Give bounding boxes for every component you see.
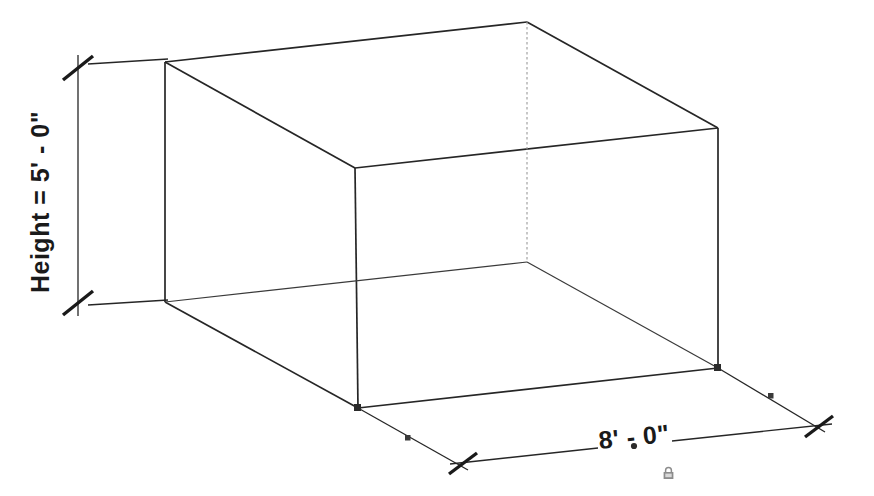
grip-bottom-front-corner[interactable] <box>354 404 361 411</box>
height-extension-line-top <box>88 59 168 64</box>
padlock-shackle <box>666 467 672 472</box>
edge-bottom-front-right <box>358 368 718 408</box>
edge-bottom-back-right <box>527 262 718 368</box>
grip-extension-right-mid[interactable] <box>768 393 774 399</box>
width-extension-line-left <box>358 408 468 470</box>
edge-top-back-left <box>165 22 527 62</box>
drawing-canvas: Height = 5' - 0" 8' - 0" <box>0 0 874 496</box>
edge-vertical-front <box>355 168 358 408</box>
edge-top-front-right <box>355 128 718 168</box>
edge-bottom-back-left <box>165 262 527 302</box>
height-dimension[interactable] <box>63 55 168 316</box>
isometric-box-drawing <box>0 0 874 496</box>
height-dimension-label[interactable]: Height = 5' - 0" <box>26 111 55 293</box>
box-geometry[interactable] <box>165 22 718 408</box>
edge-bottom-front-left <box>165 302 358 408</box>
edge-top-back-right <box>527 22 718 128</box>
grip-extension-left-mid[interactable] <box>405 435 411 441</box>
padlock-icon[interactable] <box>662 466 675 480</box>
box-top-face[interactable] <box>165 22 718 168</box>
width-extension-line-right <box>718 368 825 432</box>
width-dimension[interactable] <box>358 368 833 474</box>
edge-top-front-left <box>165 62 355 168</box>
box-vertical-edges[interactable] <box>165 62 718 408</box>
box-bottom-face[interactable] <box>165 262 718 408</box>
grip-bottom-right-corner[interactable] <box>714 364 721 371</box>
width-dimension-line-right-segment <box>672 424 832 441</box>
padlock-keyhole <box>665 474 671 478</box>
height-extension-line-bottom <box>88 300 168 305</box>
